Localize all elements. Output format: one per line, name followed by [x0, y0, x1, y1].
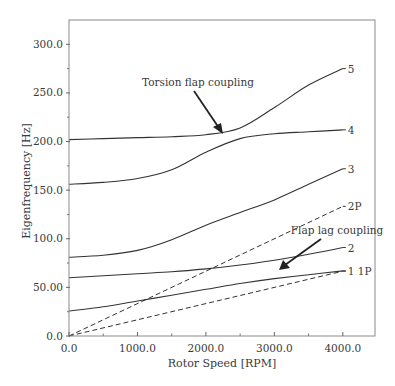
x-tick-label: 3000.0 [256, 342, 293, 354]
curve-label-4: 4 [348, 124, 355, 136]
series-1p-line [69, 271, 343, 336]
series-1-line [69, 271, 343, 311]
x-tick-label: 2000.0 [188, 342, 225, 354]
y-tick-label: 0.0 [46, 330, 63, 342]
y-tick-label: 100.0 [33, 232, 63, 244]
torsion-flap-coupling-label: Torsion flap coupling [142, 76, 254, 88]
y-axis-title: Eigenfrequency [Hz] [20, 123, 33, 239]
curve-label-2: 2 [348, 242, 355, 254]
y-tick-label: 150.0 [33, 184, 63, 196]
torsion-flap-arrowhead-icon [213, 123, 223, 134]
y-tick-label: 200.0 [33, 135, 63, 147]
curve-label-2p: 2P [348, 200, 362, 212]
curve-label-3: 3 [348, 163, 355, 175]
curve-label-5: 5 [348, 63, 355, 75]
x-tick-label: 0.0 [61, 342, 78, 354]
x-tick-label: 4000.0 [324, 342, 361, 354]
x-tick-label: 1000.0 [119, 342, 156, 354]
flap-lag-arrow [285, 239, 321, 265]
flap-lag-coupling-label: Flap lag coupling [291, 224, 384, 236]
plot-area: 5432P21 1P [69, 63, 372, 336]
y-tick-label: 250.0 [33, 86, 63, 98]
y-tick-label: 50.00 [33, 281, 63, 293]
x-axis-title: Rotor Speed [RPM] [168, 357, 276, 370]
torsion-flap-arrow [194, 91, 219, 128]
eigenfrequency-chart: 5432P21 1P 0.01000.02000.03000.04000.0 0… [0, 0, 395, 386]
torsion-flap-annotation: Torsion flap coupling [142, 76, 254, 134]
y-axis-ticks: 0.050.00100.0150.0200.0250.0300.0 [33, 38, 70, 342]
plot-frame [69, 20, 375, 336]
flap-lag-annotation: Flap lag coupling [279, 224, 384, 270]
curve-label-1-1p: 1 1P [348, 265, 372, 277]
x-axis-ticks: 0.01000.02000.03000.04000.0 [61, 332, 362, 354]
y-tick-label: 300.0 [33, 38, 63, 50]
